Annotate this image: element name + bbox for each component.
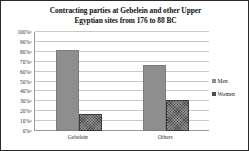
y-tick-label-60: 60% — [20, 69, 30, 75]
chart-title-line-1: Contracting parties at Gebelein and othe… — [23, 6, 228, 16]
bars-layer — [35, 32, 209, 131]
y-tick-label-90: 90% — [20, 39, 30, 45]
y-tick-label-100: 100% — [17, 29, 30, 35]
y-tick-label-0: 0% — [23, 128, 30, 134]
bar-others-men — [143, 65, 166, 131]
y-tick-label-50: 50% — [20, 79, 30, 85]
legend-swatch-women-icon — [212, 92, 216, 96]
y-tick-mark-80 — [30, 51, 32, 52]
y-tick-mark-20 — [30, 111, 32, 112]
chart-title: Contracting parties at Gebelein and othe… — [23, 6, 228, 25]
chart-legend: MenWomen — [212, 77, 248, 103]
bar-gebelein-men — [56, 50, 79, 131]
y-tick-mark-60 — [30, 71, 32, 72]
y-axis: 0%10%20%30%40%50%60%70%80%90%100% — [1, 32, 32, 131]
y-tick-mark-100 — [30, 32, 32, 33]
x-tick-label-gebelein: Gebelein — [68, 134, 88, 140]
y-tick-label-80: 80% — [20, 49, 30, 55]
legend-item-women[interactable]: Women — [212, 90, 248, 97]
y-tick-mark-30 — [30, 101, 32, 102]
y-tick-mark-10 — [30, 121, 32, 122]
plot-area — [34, 32, 209, 131]
y-tick-label-10: 10% — [20, 118, 30, 124]
y-tick-label-40: 40% — [20, 88, 30, 94]
y-tick-mark-90 — [30, 41, 32, 42]
y-tick-mark-50 — [30, 81, 32, 82]
x-tick-label-others: Others — [158, 134, 173, 140]
y-tick-mark-70 — [30, 61, 32, 62]
bar-others-women — [166, 100, 189, 131]
legend-swatch-men-icon — [212, 79, 216, 83]
chart-figure: Contracting parties at Gebelein and othe… — [0, 0, 249, 151]
y-tick-mark-40 — [30, 91, 32, 92]
bar-gebelein-women — [79, 114, 102, 131]
legend-label-men: Men — [218, 78, 228, 84]
legend-item-men[interactable]: Men — [212, 77, 248, 84]
y-tick-mark-0 — [30, 131, 32, 132]
y-tick-label-30: 30% — [20, 98, 30, 104]
y-tick-label-70: 70% — [20, 59, 30, 65]
chart-title-line-2: Egyptian sites from 176 to 88 BC — [23, 16, 228, 26]
y-tick-label-20: 20% — [20, 108, 30, 114]
legend-label-women: Women — [218, 91, 235, 97]
x-axis: GebeleinOthers — [34, 134, 209, 148]
